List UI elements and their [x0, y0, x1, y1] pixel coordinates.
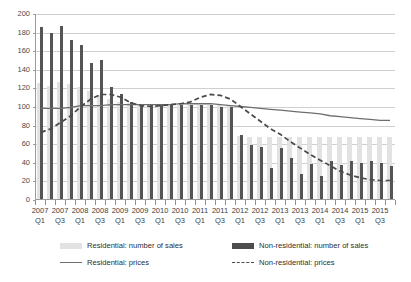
legend-item[interactable]: Non-residential: number of sales	[232, 238, 368, 253]
y-axis-tick-label: 120	[2, 84, 30, 92]
x-axis-tick	[195, 200, 196, 205]
x-axis-tick	[285, 200, 286, 205]
x-axis-tick	[115, 200, 116, 205]
legend-swatch-icon	[232, 262, 254, 263]
x-axis-tick	[225, 200, 226, 205]
x-axis-tick	[365, 200, 366, 205]
y-axis-tick-label: 20	[2, 177, 30, 185]
plot-area	[35, 14, 395, 200]
chart-legend: Residential: number of salesNon-resident…	[60, 238, 380, 272]
x-axis-tick	[155, 200, 156, 205]
line-series-layer	[36, 14, 395, 199]
nonresidential-prices-line	[41, 94, 390, 180]
x-axis-tick	[325, 200, 326, 205]
chart-container: 020406080100120140160180200 2007Q12007Q3…	[0, 0, 411, 282]
legend-label: Residential: prices	[87, 259, 149, 267]
x-axis-tick	[55, 200, 56, 205]
x-axis-tick	[395, 200, 396, 205]
x-axis-tick	[85, 200, 86, 205]
legend-row-bars: Residential: number of salesNon-resident…	[60, 238, 380, 253]
x-axis-label-year: 2015	[365, 206, 395, 216]
x-axis-tick	[185, 200, 186, 205]
y-axis-tick-label: 180	[2, 29, 30, 37]
x-axis-tick	[75, 200, 76, 205]
x-axis-tick	[245, 200, 246, 205]
x-axis-tick	[305, 200, 306, 205]
x-axis-tick	[45, 200, 46, 205]
x-axis-tick	[35, 200, 36, 205]
x-axis-tick	[135, 200, 136, 205]
y-axis-tick-label: 0	[2, 196, 30, 204]
x-axis-tick	[215, 200, 216, 205]
y-axis-tick-label: 100	[2, 103, 30, 111]
legend-label: Residential: number of sales	[87, 242, 183, 250]
y-axis-tick-label: 60	[2, 140, 30, 148]
legend-swatch-icon	[60, 243, 82, 249]
y-axis-tick-label: 80	[2, 122, 30, 130]
x-axis-tick	[275, 200, 276, 205]
x-axis-tick-label: 2015Q3	[365, 206, 395, 225]
x-axis-tick	[145, 200, 146, 205]
legend-row-lines: Residential: pricesNon-residential: pric…	[60, 255, 380, 270]
legend-swatch-icon	[60, 262, 82, 263]
x-axis-tick	[65, 200, 66, 205]
legend-swatch-icon	[232, 243, 254, 249]
x-axis-tick	[165, 200, 166, 205]
legend-label: Non-residential: prices	[259, 259, 335, 267]
x-axis-tick	[385, 200, 386, 205]
x-axis-tick	[205, 200, 206, 205]
legend-item[interactable]: Non-residential: prices	[232, 255, 335, 270]
x-axis-tick	[335, 200, 336, 205]
x-axis-tick	[315, 200, 316, 205]
y-axis-tick-label: 160	[2, 47, 30, 55]
legend-item[interactable]: Residential: prices	[60, 255, 149, 270]
x-axis-tick	[255, 200, 256, 205]
legend-item[interactable]: Residential: number of sales	[60, 238, 183, 253]
y-axis-tick-label: 140	[2, 66, 30, 74]
x-axis-tick	[95, 200, 96, 205]
x-axis-tick	[355, 200, 356, 205]
x-axis-tick	[125, 200, 126, 205]
legend-label: Non-residential: number of sales	[259, 242, 368, 250]
x-axis-tick	[105, 200, 106, 205]
x-axis-label-quarter: Q3	[365, 216, 395, 226]
x-axis-tick	[295, 200, 296, 205]
x-axis-tick	[345, 200, 346, 205]
x-axis-tick	[375, 200, 376, 205]
residential-prices-line	[41, 104, 390, 121]
y-axis-tick-label: 40	[2, 159, 30, 167]
x-axis-tick	[175, 200, 176, 205]
y-axis-tick-label: 200	[2, 10, 30, 18]
x-axis-tick	[265, 200, 266, 205]
x-axis-tick	[235, 200, 236, 205]
